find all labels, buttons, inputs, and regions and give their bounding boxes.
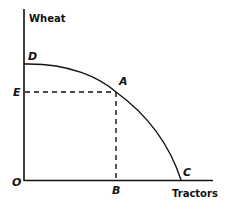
point-e-label: E <box>13 86 21 99</box>
ppf-curve <box>24 64 181 180</box>
point-a-label: A <box>118 75 128 88</box>
point-c-label: C <box>183 166 191 179</box>
point-d-label: D <box>28 50 37 63</box>
point-b-label: B <box>112 184 120 197</box>
ppf-diagram: Wheat Tractors O D A C E B <box>0 0 229 213</box>
y-axis-label: Wheat <box>29 13 66 24</box>
x-axis-label: Tractors <box>172 188 218 199</box>
origin-label: O <box>12 176 21 189</box>
